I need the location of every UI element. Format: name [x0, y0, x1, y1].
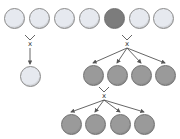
bottom-circle-4 [134, 114, 155, 135]
cell-division-diagram: xxx [0, 0, 180, 139]
arrow [104, 100, 120, 112]
arrow [104, 100, 144, 112]
middle-circle-1 [83, 65, 104, 86]
arrow [127, 48, 141, 63]
top-circle-4 [79, 8, 100, 29]
top-circle-1 [4, 8, 25, 29]
branch-connector-3: x [71, 87, 144, 112]
top-circle-3 [54, 8, 75, 29]
branch-connector-2: x [93, 35, 165, 63]
top-circle-5 [104, 8, 125, 29]
cross-mark: x [125, 40, 129, 48]
middle-circle-3 [131, 65, 152, 86]
bottom-circle-1 [61, 114, 82, 135]
middle-circle-4 [155, 65, 176, 86]
cross-mark: x [102, 92, 106, 100]
top-circle-7 [153, 8, 174, 29]
top-circle-2 [29, 8, 50, 29]
left_result-circle-1 [20, 66, 41, 87]
bottom-circle-2 [85, 114, 106, 135]
middle-circle-2 [107, 65, 128, 86]
cross-mark: x [28, 40, 32, 48]
bottom-circle-3 [110, 114, 131, 135]
top-circle-6 [129, 8, 150, 29]
branch-connector-1: x [25, 35, 35, 64]
arrow [127, 48, 165, 63]
